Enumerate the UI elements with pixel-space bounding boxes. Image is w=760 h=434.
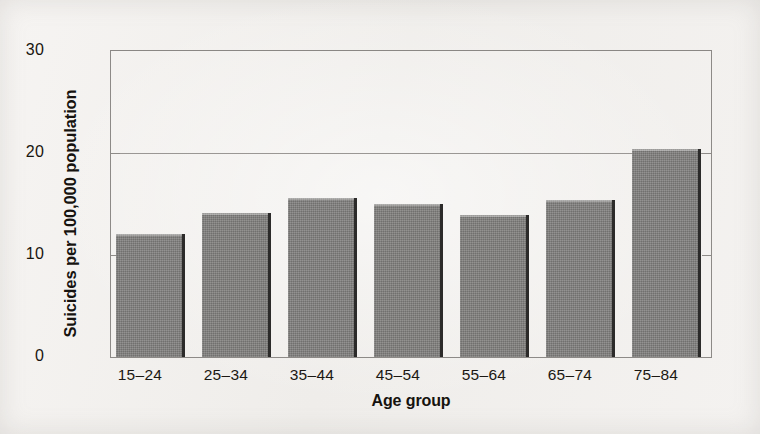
bar-65-74 [546,200,615,357]
bar-75-84 [632,149,701,357]
y-tick-label-30: 30 [0,41,44,59]
y-axis-title: Suicides per 100,000 population [61,49,80,379]
figure-container: Suicides per 100,000 population 0 10 20 … [0,0,760,434]
bar-15-24 [116,234,185,357]
y-tick-mark-20-left [111,153,120,154]
x-tick-label-6: 75–84 [596,366,716,384]
bar-45-54 [374,204,443,357]
y-tick-mark-20-right [702,153,711,154]
y-tick-label-10: 10 [0,245,44,263]
x-axis-title: Age group [110,392,712,410]
plot-area [110,50,712,358]
y-tick-label-20: 20 [0,143,44,161]
y-tick-label-0: 0 [0,347,44,365]
bar-35-44 [288,198,357,357]
bar-25-34 [202,213,271,357]
y-tick-mark-10-right [702,255,711,256]
bar-55-64 [460,215,529,357]
gridline-20 [111,153,711,154]
